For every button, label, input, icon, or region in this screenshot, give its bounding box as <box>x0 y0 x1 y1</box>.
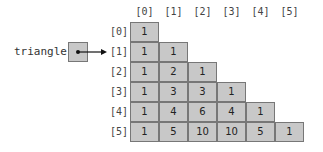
array-cell: 1 <box>130 122 159 142</box>
array-cell: 1 <box>130 102 159 122</box>
array-cell: 1 <box>130 22 159 42</box>
column-header: [4] <box>246 6 275 17</box>
array-cell: 6 <box>188 102 217 122</box>
array-cell: 5 <box>159 122 188 142</box>
column-header: [0] <box>130 6 159 17</box>
array-cell: 1 <box>246 102 275 122</box>
row-header: [2] <box>100 66 128 77</box>
array-cell: 3 <box>159 82 188 102</box>
array-cell: 1 <box>130 42 159 62</box>
row-header: [1] <box>100 46 128 57</box>
array-cell: 1 <box>275 122 304 142</box>
row-header: [3] <box>100 86 128 97</box>
array-cell: 4 <box>217 102 246 122</box>
column-header: [1] <box>159 6 188 17</box>
array-cell: 1 <box>217 82 246 102</box>
column-header: [2] <box>188 6 217 17</box>
array-cell: 1 <box>188 62 217 82</box>
array-cell: 10 <box>217 122 246 142</box>
array-cell: 1 <box>159 42 188 62</box>
row-header: [0] <box>100 26 128 37</box>
row-header: [4] <box>100 106 128 117</box>
array-cell: 5 <box>246 122 275 142</box>
column-header: [3] <box>217 6 246 17</box>
array-cell: 4 <box>159 102 188 122</box>
array-cell: 1 <box>130 62 159 82</box>
row-header: [5] <box>100 126 128 137</box>
array-cell: 2 <box>159 62 188 82</box>
column-header: [5] <box>275 6 304 17</box>
array-cell: 3 <box>188 82 217 102</box>
array-cell: 1 <box>130 82 159 102</box>
array-cell: 10 <box>188 122 217 142</box>
